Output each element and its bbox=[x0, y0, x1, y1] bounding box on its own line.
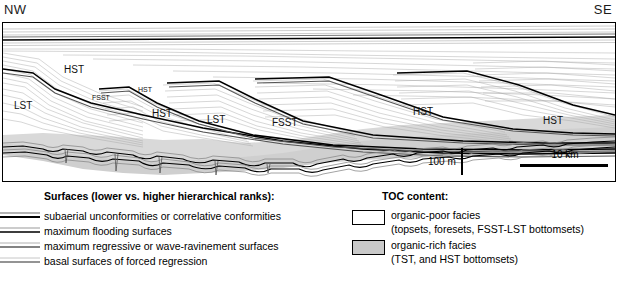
surface-swatch-subaerial-unconformity-icon bbox=[0, 208, 40, 223]
legend-label-organic-rich-facies: organic-rich facies bbox=[391, 238, 518, 252]
legend-label-maximum-regressive-surfaces: maximum regressive or wave-ravinement su… bbox=[44, 239, 279, 253]
legend-row-organic-poor-facies: organic-poor facies (topsets, foresets, … bbox=[352, 208, 618, 236]
vertical-scale-tick bbox=[461, 148, 463, 175]
vertical-scale-label: 100 m bbox=[428, 156, 456, 167]
legend-row-organic-rich-facies: organic-rich facies (TST, and HST bottom… bbox=[352, 238, 618, 266]
legend-sublabel-organic-rich-facies: (TST, and HST bottomsets) bbox=[391, 252, 518, 266]
legend-toc-group: TOC content: organic-poor facies (topset… bbox=[352, 190, 618, 268]
legend-label-organic-poor-facies: organic-poor facies bbox=[391, 208, 584, 222]
horizontal-scale-line bbox=[520, 164, 608, 167]
legend-surfaces-group: Surfaces (lower vs. higher hierarchical … bbox=[0, 190, 352, 268]
surface-swatch-maximum-flooding-icon bbox=[0, 223, 40, 238]
legend-toc-title: TOC content: bbox=[352, 190, 618, 202]
surface-swatch-basal-forced-regression-icon bbox=[0, 253, 40, 268]
legend-sublabel-organic-poor-facies: (topsets, foresets, FSST-LST bottomsets) bbox=[391, 222, 584, 236]
orientation-label-se: SE bbox=[594, 2, 612, 17]
surface-swatch-maximum-regressive-icon bbox=[0, 238, 40, 253]
horizontal-scale-bar: 10 km bbox=[520, 148, 610, 167]
legend-row-subaerial-unconformities: subaerial unconformities or correlative … bbox=[0, 208, 352, 223]
legend-row-maximum-regressive-surfaces: maximum regressive or wave-ravinement su… bbox=[0, 238, 352, 253]
organic-rich-swatch-icon bbox=[352, 240, 385, 255]
stratigraphic-section-panel: 100 m 10 km bbox=[2, 22, 616, 182]
horizontal-scale-label: 10 km bbox=[520, 148, 610, 161]
orientation-label-nw: NW bbox=[4, 2, 26, 17]
legend-row-maximum-flooding-surfaces: maximum flooding surfaces bbox=[0, 223, 352, 238]
legend-label-maximum-flooding-surfaces: maximum flooding surfaces bbox=[44, 224, 172, 238]
legend: Surfaces (lower vs. higher hierarchical … bbox=[0, 190, 618, 296]
legend-surfaces-title: Surfaces (lower vs. higher hierarchical … bbox=[0, 190, 352, 202]
vertical-scale-bar: 100 m bbox=[428, 148, 463, 175]
legend-row-basal-surfaces-forced-regression: basal surfaces of forced regression bbox=[0, 253, 352, 268]
cross-section-figure: NW SE bbox=[0, 0, 618, 186]
organic-poor-swatch-icon bbox=[352, 210, 385, 225]
legend-label-subaerial-unconformities: subaerial unconformities or correlative … bbox=[44, 209, 281, 223]
legend-label-basal-surfaces-forced-regression: basal surfaces of forced regression bbox=[44, 254, 207, 268]
